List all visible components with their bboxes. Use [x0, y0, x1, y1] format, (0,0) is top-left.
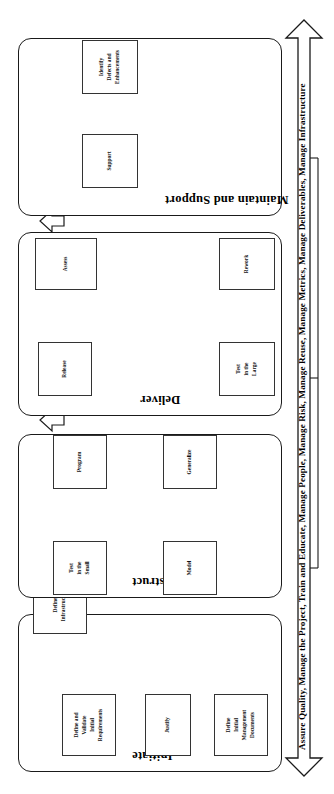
activity-program[interactable]: Program [53, 435, 107, 489]
activity-generalize[interactable]: Generalize [163, 435, 217, 489]
activity-define-initial-management-documents[interactable]: DefineInitialManagementDocuments [214, 694, 268, 756]
activity-rework[interactable]: Rework [219, 238, 275, 290]
activity-define-initial-management-documents-label: DefineInitialManagementDocuments [225, 710, 256, 740]
activity-test-in-the-small-label: Testin theSmall [68, 561, 91, 574]
phase-maintain-and-support[interactable] [18, 38, 282, 216]
activity-support[interactable]: Support [82, 134, 138, 188]
activity-assess-label: Assess [62, 257, 70, 272]
activity-model-label: Model [186, 561, 194, 576]
activity-justify[interactable]: Justify [145, 694, 191, 756]
activity-model[interactable]: Model [163, 541, 217, 595]
diagram-canvas: Initiate Justify DefineInitialManagement… [0, 0, 334, 794]
activity-identify-defects-and-enhancements-label: IdentifyDefects andEnhancements [98, 50, 121, 84]
activity-test-in-the-large[interactable]: Testin theLarge [219, 342, 275, 396]
activity-program-label: Program [76, 452, 84, 473]
activity-support-label: Support [106, 152, 114, 171]
activity-assess[interactable]: Assess [35, 238, 97, 290]
activity-define-and-validate-initial-requirements[interactable]: Define andValidateInitialRequirements [62, 694, 116, 756]
activity-identify-defects-and-enhancements[interactable]: IdentifyDefects andEnhancements [82, 40, 138, 94]
activity-test-in-the-small[interactable]: Testin theSmall [53, 541, 107, 595]
activity-test-in-the-large-label: Testin theLarge [235, 362, 258, 376]
phase-maintain-and-support-title: Maintain and Support [165, 192, 288, 207]
activity-justify-label: Justify [164, 717, 172, 733]
activity-rework-label: Rework [243, 255, 251, 273]
activity-generalize-label: Generalize [186, 450, 194, 475]
activity-release-label: Release [61, 360, 69, 377]
activity-release[interactable]: Release [38, 342, 92, 396]
phase-deliver-title: Deliver [140, 392, 180, 407]
support-processes-label: Assure Quality, Manage the Project, Trai… [297, 83, 307, 750]
activity-define-and-validate-initial-requirements-label: Define andValidateInitialRequirements [73, 709, 104, 741]
